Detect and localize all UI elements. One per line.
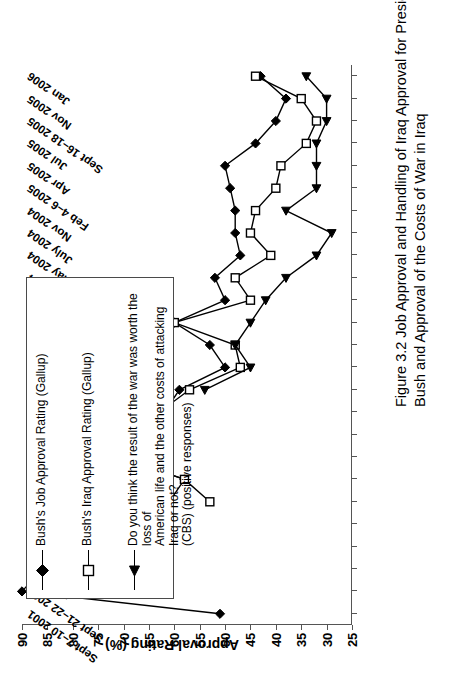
x-axis-tick — [352, 434, 357, 435]
x-axis-tick — [352, 299, 357, 300]
y-axis-tick-label: 45 — [244, 633, 257, 667]
x-axis-tick — [352, 232, 357, 233]
data-point-marker — [200, 386, 209, 394]
legend-item-job-approval: Bush's Job Approval Rating (Gallup) — [35, 284, 79, 592]
caption-line-2: Bush and Approval of the Costs of War in… — [411, 17, 430, 407]
data-point-marker — [220, 296, 229, 305]
x-axis-tick — [352, 210, 357, 211]
x-axis-tick — [352, 411, 357, 412]
legend-label: Bush's Iraq Approval Rating (Gallup) — [81, 352, 95, 548]
y-axis-tick — [225, 625, 226, 630]
y-axis-tick — [276, 625, 277, 630]
x-axis-tick — [352, 546, 357, 547]
chart-legend: Bush's Job Approval Rating (Gallup) Bush… — [26, 277, 174, 599]
y-axis-tick-label: 35 — [295, 633, 308, 667]
x-axis-tick — [352, 478, 357, 479]
data-point-marker — [297, 95, 305, 103]
y-axis-tick — [327, 625, 328, 630]
data-point-marker — [231, 228, 240, 237]
data-point-marker — [215, 609, 224, 618]
data-point-marker — [312, 140, 321, 148]
x-axis-tick — [352, 456, 357, 457]
legend-item-war-worth-it: Do you think the result of the war was w… — [127, 284, 171, 592]
x-axis-tick — [352, 389, 357, 390]
data-point-marker — [205, 340, 214, 349]
x-axis-tick — [352, 590, 357, 591]
data-point-marker — [312, 117, 320, 125]
data-point-marker — [282, 207, 291, 215]
legend-label: Bush's Job Approval Rating (Gallup) — [35, 354, 49, 548]
data-point-marker — [322, 95, 331, 103]
y-axis-tick-label: 30 — [321, 633, 334, 667]
data-point-marker — [312, 252, 321, 260]
y-axis-label: Approval Rating (%) — [105, 637, 239, 653]
data-point-marker — [312, 185, 321, 193]
y-axis-tick — [98, 625, 99, 630]
x-axis-tick — [352, 344, 357, 345]
data-point-marker — [272, 184, 280, 192]
legend-label: Do you think the result of the war was w… — [127, 284, 195, 548]
x-axis-tick — [352, 613, 357, 614]
data-point-marker — [206, 498, 214, 506]
y-axis-tick — [250, 625, 251, 630]
y-axis-tick-label: 40 — [270, 633, 283, 667]
filled-diamond-icon — [36, 548, 50, 592]
caption-line-1: Figure 3.2 Job Approval and Handling of … — [392, 17, 411, 407]
figure-caption: Figure 3.2 Job Approval and Handling of … — [392, 17, 430, 407]
y-axis-tick-label: 85 — [41, 633, 54, 667]
x-axis-tick — [352, 120, 357, 121]
open-square-icon — [82, 548, 96, 592]
data-point-marker — [277, 162, 285, 170]
data-point-marker — [226, 184, 235, 193]
x-axis-tick — [352, 568, 357, 569]
y-axis-tick — [22, 625, 23, 630]
x-axis-tick — [352, 75, 357, 76]
x-axis-tick — [352, 322, 357, 323]
x-axis-tick — [352, 366, 357, 367]
data-point-marker — [236, 363, 244, 371]
x-axis-tick — [352, 165, 357, 166]
data-point-marker — [246, 296, 254, 304]
filled-triangle-icon — [128, 548, 142, 592]
data-point-marker — [231, 206, 240, 215]
x-axis-tick — [352, 98, 357, 99]
x-axis-tick — [352, 254, 357, 255]
data-point-marker — [302, 139, 310, 147]
data-point-marker — [312, 162, 321, 170]
data-point-marker — [220, 363, 229, 372]
y-axis-tick — [352, 625, 353, 630]
y-axis-tick — [174, 625, 175, 630]
data-point-marker — [246, 229, 254, 237]
x-axis-tick — [352, 523, 357, 524]
data-point-marker — [231, 274, 239, 282]
figure-container: 2530354045505560657075808590 Sept 7–10 2… — [0, 0, 472, 695]
x-axis-tick — [352, 142, 357, 143]
y-axis-tick — [124, 625, 125, 630]
data-point-marker — [252, 72, 260, 80]
x-axis-tick — [352, 277, 357, 278]
legend-item-iraq-approval: Bush's Iraq Approval Rating (Gallup) — [81, 284, 125, 592]
y-axis-tick — [200, 625, 201, 630]
y-axis-tick — [149, 625, 150, 630]
data-point-marker — [252, 207, 260, 215]
data-point-marker — [246, 364, 255, 372]
y-axis-tick-label: 90 — [16, 633, 29, 667]
x-axis-tick — [352, 501, 357, 502]
y-axis-tick-label: 25 — [346, 633, 359, 667]
data-point-marker — [267, 251, 275, 259]
y-axis-tick — [301, 625, 302, 630]
x-axis-tick — [352, 187, 357, 188]
data-point-marker — [322, 118, 331, 126]
